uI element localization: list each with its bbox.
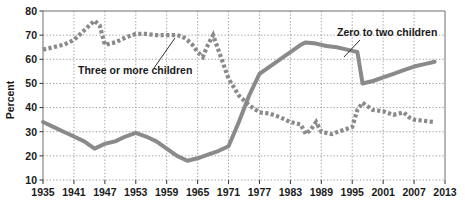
x-tick-label: 2013 [433, 186, 457, 198]
annotation-label: Three or more children [78, 64, 192, 76]
x-tick-label: 1989 [310, 186, 334, 198]
chart-container: 8070605040302010 19351941194719531959196… [0, 0, 465, 206]
x-tick-label: 1959 [155, 186, 179, 198]
x-tick-label: 2001 [371, 186, 395, 198]
x-tick-label: 1941 [62, 186, 86, 198]
y-tick-label: 60 [25, 53, 37, 65]
x-tick-label: 1965 [186, 186, 210, 198]
y-tick-label: 30 [25, 126, 37, 138]
y-tick-label: 70 [25, 29, 37, 41]
y-tick-label: 40 [25, 101, 37, 113]
x-tick-label: 1983 [279, 186, 303, 198]
x-tick-label: 2007 [402, 186, 426, 198]
y-tick-label: 50 [25, 77, 37, 89]
x-tick-label: 1977 [248, 186, 272, 198]
x-tick-label: 1947 [93, 186, 117, 198]
x-tick-label: 1953 [124, 186, 148, 198]
line-chart: 8070605040302010 19351941194719531959196… [0, 0, 465, 206]
y-tick-label: 10 [25, 174, 37, 186]
x-tick-label: 1995 [341, 186, 365, 198]
annotation-label: Zero to two children [337, 26, 437, 38]
x-tick-label: 1935 [31, 186, 55, 198]
y-axis-title: Percent [4, 80, 16, 119]
x-tick-label: 1971 [217, 186, 241, 198]
y-tick-label: 80 [25, 5, 37, 17]
y-tick-label: 20 [25, 150, 37, 162]
